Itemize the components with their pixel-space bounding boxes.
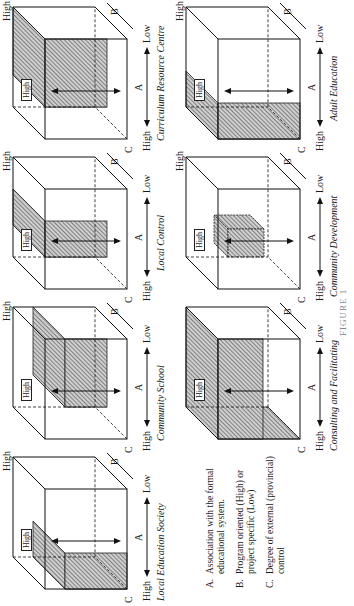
axis-c-label: C <box>296 446 307 453</box>
panel-title: Consulting and Facilitating <box>328 340 339 451</box>
cube-diagram <box>178 1 343 151</box>
cube-diagram <box>5 1 170 151</box>
axis-b-label: B <box>109 458 120 465</box>
a-low-label: Low <box>314 25 325 43</box>
axis-b-label: B <box>109 158 120 165</box>
a-high-label: High <box>141 131 152 151</box>
panel-adult-education: High C A B High Low High Adult Education <box>178 1 343 151</box>
legend-item-c: C. Degree of external (provincial) contr… <box>265 448 287 588</box>
b-high-label: High <box>1 151 12 171</box>
a-high-label: High <box>141 281 152 301</box>
legend-item-b: B. Program oriented (High) or project sp… <box>235 448 257 588</box>
axis-b-label: B <box>109 308 120 315</box>
cube-diagram <box>5 451 170 601</box>
panel-title: Adult Education <box>328 56 339 121</box>
a-high-label: High <box>314 281 325 301</box>
high-box-label: High <box>21 529 32 551</box>
cube-diagram <box>5 301 170 451</box>
axis-b-label: B <box>282 8 293 15</box>
panel-consulting-and-facilitating: High C A B High Low Consulting and Facil… <box>178 301 343 451</box>
high-box-label: High <box>194 229 205 251</box>
axis-a-label: A <box>306 84 317 91</box>
axis-legend: A. Association with the formal education… <box>205 448 295 588</box>
a-high-label: High <box>141 581 152 601</box>
high-box-label: High <box>21 79 32 101</box>
cube-diagram <box>5 151 170 301</box>
high-box-label: High <box>194 379 205 401</box>
b-high-label: High <box>1 451 12 471</box>
axis-b-label: B <box>282 308 293 315</box>
axis-c-label: C <box>123 146 134 153</box>
high-box-label: High <box>21 229 32 251</box>
panel-title: Local Education Society <box>155 503 166 601</box>
axis-b-label: B <box>109 8 120 15</box>
axis-c-label: C <box>296 146 307 153</box>
a-low-label: Low <box>141 325 152 343</box>
b-high-label: High <box>174 151 185 171</box>
panel-curriculum-resource-centre: High C A B High Low High Curriculum Reso… <box>5 1 170 151</box>
a-low-label: Low <box>141 175 152 193</box>
axis-a-label: A <box>133 234 144 241</box>
high-box-label: High <box>194 79 205 101</box>
panel-community-development: High C A B High Low High Community Devel… <box>178 151 343 301</box>
panel-local-education-society: High C A B High Low High Local Education… <box>5 451 170 601</box>
axis-a-label: A <box>306 234 317 241</box>
panel-title: Local Control <box>155 215 166 271</box>
axis-a-label: A <box>133 534 144 541</box>
axis-c-label: C <box>123 596 134 603</box>
cube-diagram <box>178 301 343 451</box>
panel-community-school: High C A B High Low High Community Schoo… <box>5 301 170 451</box>
cube-diagram <box>178 151 343 301</box>
axis-c-label: C <box>296 296 307 303</box>
axis-a-label: A <box>133 84 144 91</box>
legend-item-a: A. Association with the formal education… <box>205 448 227 588</box>
axis-a-label: A <box>306 384 317 391</box>
a-low-label: Low <box>141 475 152 493</box>
a-low-label: Low <box>314 175 325 193</box>
panel-title: Community School <box>155 365 166 441</box>
panel-local-control: High C A B High Low High Local Control <box>5 151 170 301</box>
a-high-label: High <box>141 431 152 451</box>
panel-title: Curriculum Resource Centre <box>155 26 166 141</box>
b-high-label: High <box>1 301 12 321</box>
diagram-page: High C A B High Low High Local Education… <box>0 0 354 606</box>
axis-a-label: A <box>133 384 144 391</box>
a-high-label: High <box>314 131 325 151</box>
b-high-label: High <box>1 1 12 21</box>
axis-c-label: C <box>123 296 134 303</box>
axis-c-label: C <box>123 446 134 453</box>
figure-caption: FIGURE 1 <box>338 289 348 336</box>
axis-b-label: B <box>282 158 293 165</box>
high-box-label: High <box>21 379 32 401</box>
a-low-label: Low <box>141 25 152 43</box>
a-high-label: High <box>314 431 325 451</box>
panel-title: Community Development <box>328 196 339 297</box>
b-high-label: High <box>174 1 185 21</box>
a-low-label: Low <box>314 325 325 343</box>
